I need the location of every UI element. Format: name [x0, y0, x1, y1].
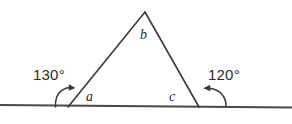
- geometry-figure: 130° 120° a b c: [0, 0, 292, 124]
- interior-angle-a-label: a: [86, 89, 93, 104]
- baseline: [0, 105, 292, 108]
- interior-angle-c-label: c: [169, 89, 176, 104]
- left-angle-arc: [55, 88, 69, 108]
- geometry-diagram: 130° 120° a b c: [0, 0, 292, 124]
- right-angle-arrowhead: [203, 85, 210, 92]
- left-angle-arrowhead: [69, 84, 76, 91]
- right-angle-arc: [210, 88, 227, 107]
- triangle-left-side: [68, 12, 145, 107]
- exterior-angle-left-label: 130°: [33, 66, 65, 83]
- interior-angle-b-label: b: [140, 27, 147, 42]
- exterior-angle-right-label: 120°: [208, 66, 240, 83]
